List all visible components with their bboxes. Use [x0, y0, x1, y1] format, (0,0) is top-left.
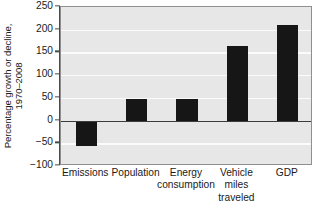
bar: [126, 99, 147, 120]
y-axis-tick-label: 150: [36, 46, 53, 56]
y-axis-tick-label: 250: [36, 1, 53, 11]
gridline: [61, 75, 311, 76]
gridline: [61, 30, 311, 31]
bar: [76, 121, 97, 147]
x-axis-tick-label-line: GDP: [251, 167, 315, 179]
gridline: [61, 143, 311, 144]
y-axis-tick-label: 100: [36, 69, 53, 79]
y-axis-title-line-1: Percentage growth or decline,: [2, 24, 14, 149]
x-axis-tick-label: GDP: [251, 167, 315, 179]
bar: [227, 46, 248, 121]
x-axis-tick-labels: EmissionsPopulationEnergyconsumptionVehi…: [60, 167, 312, 208]
plot-area: [60, 6, 312, 165]
y-axis-title: Percentage growth or decline, 1970–2008: [0, 0, 26, 172]
x-axis-tick-label-line: miles: [200, 179, 273, 191]
y-axis-tick-label: 50: [42, 92, 53, 102]
bar: [277, 25, 298, 120]
zero-line: [61, 121, 311, 122]
y-axis-tick-labels: 250200150100500−50−100: [26, 0, 58, 172]
y-axis-tick-label: −50: [36, 137, 53, 147]
y-axis-tick-label: 0: [47, 115, 53, 125]
bar: [176, 99, 197, 120]
x-axis-tick-label-line: traveled: [200, 192, 273, 204]
y-axis-title-line-2: 1970–2008: [13, 62, 25, 109]
gridline: [61, 52, 311, 53]
bar-chart: Percentage growth or decline, 1970–2008 …: [0, 0, 314, 208]
y-axis-tick-label: 200: [36, 24, 53, 34]
